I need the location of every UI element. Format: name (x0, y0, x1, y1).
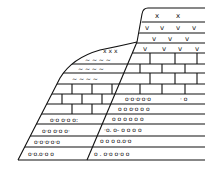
svg-text:v: v (176, 24, 180, 32)
svg-text:v: v (160, 24, 164, 32)
svg-text:v: v (143, 45, 147, 53)
svg-text:o·o o·o o:: o·o o·o o: (50, 116, 78, 123)
svg-text:o·o.o·o o: o·o.o·o o (28, 150, 54, 157)
svg-text:o·o·o·o·o: o·o·o·o·o (125, 95, 151, 102)
svg-text:x: x (176, 12, 180, 20)
svg-text:v: v (185, 35, 189, 43)
svg-text:· o: · o (180, 95, 188, 102)
svg-text:v: v (192, 24, 196, 32)
svg-text:v: v (145, 24, 149, 32)
svg-text:·o. o- o o o o: ·o. o- o o o o (104, 126, 142, 133)
svg-text:x: x (155, 12, 159, 20)
svg-text:~ ~ ~ ~: ~ ~ ~ ~ (78, 65, 104, 72)
svg-text:v: v (152, 35, 156, 43)
svg-text:v: v (162, 45, 166, 53)
svg-text:o o o·o o o: o o o·o o o (118, 105, 150, 112)
svg-text:v: v (195, 45, 199, 53)
svg-text:o o o o.o·o: o o o o.o·o (100, 137, 132, 144)
svg-text:o·o o·o o·: o·o o·o o· (42, 127, 70, 134)
svg-text:o . o·o o·o o: o . o·o o·o o (94, 150, 130, 157)
svg-text:~ ~ ~ ~: ~ ~ ~ ~ (85, 56, 111, 63)
svg-text:v: v (178, 45, 182, 53)
svg-text:o·o·o·o·o: o·o·o·o·o (34, 138, 60, 145)
svg-text:o o o o o o: o o o o o o (112, 115, 144, 122)
geologic-cross-section: xx vvvv vvv vvvv o·o·o·o·o· o o o o·o o … (0, 0, 217, 172)
svg-text:~ ~ ~ ~: ~ ~ ~ ~ (72, 75, 98, 82)
svg-text:v: v (168, 35, 172, 43)
